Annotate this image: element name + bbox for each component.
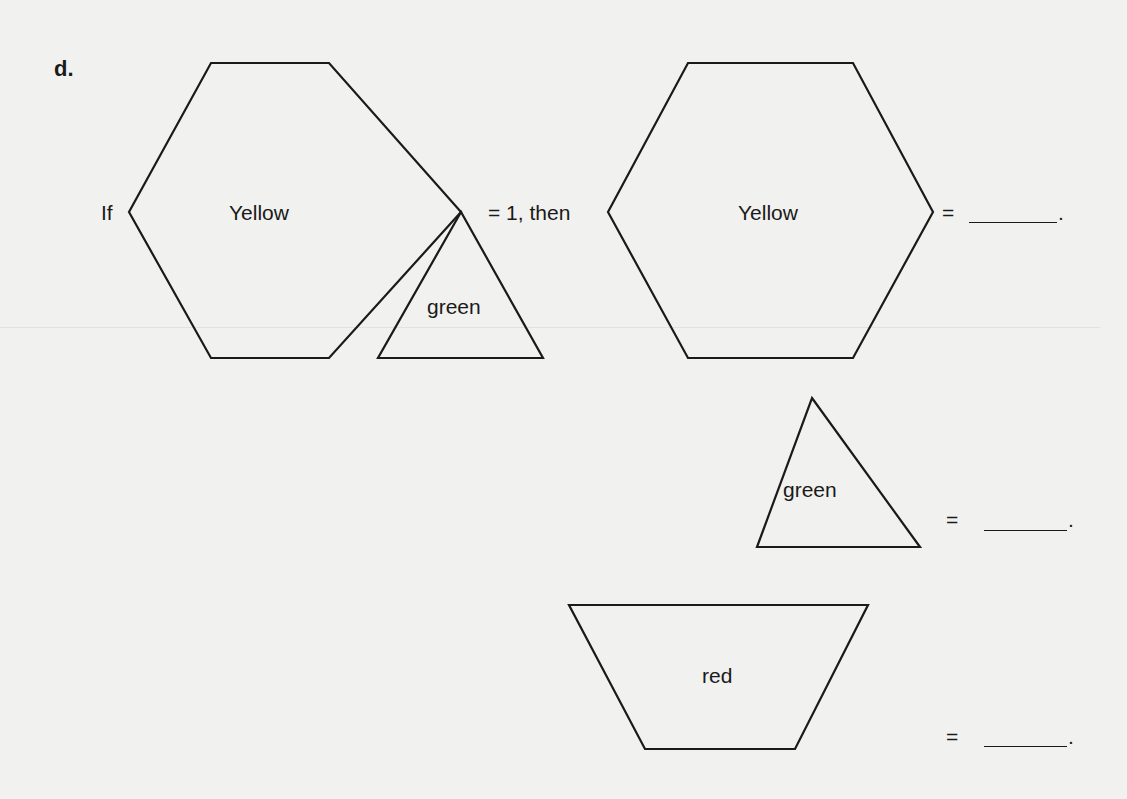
question-hexagon-period: . xyxy=(1058,202,1064,223)
answer-blank-triangle[interactable] xyxy=(984,530,1067,531)
worksheet-page: d. If Yellow green = 1, then Yellow = . … xyxy=(0,0,1127,799)
question-hexagon-label: Yellow xyxy=(738,202,798,223)
question-green-triangle xyxy=(757,398,920,547)
given-triangle-label: green xyxy=(427,296,481,317)
question-triangle-label: green xyxy=(783,479,837,500)
given-green-triangle xyxy=(378,212,543,358)
if-text: If xyxy=(101,202,113,223)
question-hexagon-equals: = xyxy=(942,202,954,223)
answer-blank-trapezoid[interactable] xyxy=(984,746,1067,747)
given-hexagon-label: Yellow xyxy=(229,202,289,223)
question-triangle-period: . xyxy=(1068,509,1074,530)
given-yellow-hexagon xyxy=(129,63,461,358)
shapes-canvas xyxy=(0,0,1127,799)
question-trapezoid-equals: = xyxy=(946,726,958,747)
question-trapezoid-label: red xyxy=(702,665,732,686)
question-trapezoid-period: . xyxy=(1068,726,1074,747)
question-triangle-equals: = xyxy=(946,509,958,530)
problem-label: d. xyxy=(54,58,74,80)
answer-blank-hexagon[interactable] xyxy=(969,222,1057,223)
given-equals-text: = 1, then xyxy=(488,202,570,223)
